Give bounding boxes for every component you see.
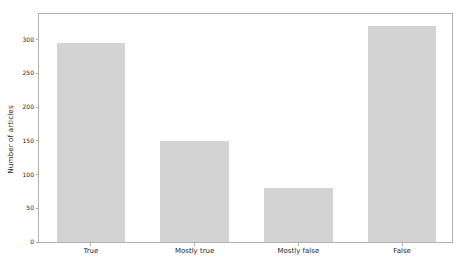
- bar: [264, 188, 332, 242]
- y-tick-label: 200: [23, 102, 34, 112]
- bar-series: [39, 14, 452, 242]
- x-tick-mark: [90, 242, 91, 246]
- bar: [160, 141, 228, 242]
- y-tick-label: 100: [23, 170, 34, 180]
- x-tick-label: Mostly false: [278, 247, 320, 255]
- x-tick-label: False: [393, 247, 411, 255]
- y-tick-label: 250: [23, 68, 34, 78]
- x-tick-label: Mostly true: [175, 247, 214, 255]
- y-tick-label: 50: [26, 203, 34, 213]
- x-tick-label: True: [83, 247, 98, 255]
- bar: [57, 43, 125, 242]
- bar-chart-figure: Number of articles 050100150200250300 Tr…: [0, 0, 465, 279]
- x-tick-mark: [298, 242, 299, 246]
- plot-area: 050100150200250300 TrueMostly trueMostly…: [38, 13, 453, 243]
- bar: [368, 26, 436, 242]
- y-tick-label: 0: [30, 237, 34, 247]
- x-tick-mark: [402, 242, 403, 246]
- y-tick-label: 150: [23, 136, 34, 146]
- y-tick-label: 300: [23, 35, 34, 45]
- y-axis-title: Number of articles: [3, 0, 17, 279]
- x-tick-mark: [194, 242, 195, 246]
